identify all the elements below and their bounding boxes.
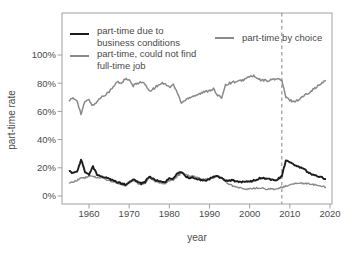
- y-tick-label: 80%: [37, 78, 57, 89]
- series-line-part-time-by-choice: [69, 75, 326, 115]
- y-tick-label: 40%: [37, 134, 57, 145]
- legend-line-business-conditions: [70, 33, 89, 35]
- x-tick-label: 2020: [319, 208, 340, 219]
- series-line-part-time-could-not-find-full-time-job: [69, 173, 326, 189]
- legend-text-line: part-time due to: [97, 25, 180, 37]
- legend-label-business-conditions: part-time due to business conditions: [97, 25, 180, 48]
- legend-text-line: part-time, could not find: [97, 48, 196, 60]
- legend-label-could-not-find: part-time, could not find full-time job: [97, 48, 196, 71]
- legend-text-line: part-time by choice: [242, 32, 322, 44]
- x-tick-label: 1970: [119, 208, 140, 219]
- part-time-rate-chart: 19601970198019902000201020200%20%40%60%8…: [0, 0, 353, 257]
- x-tick-label: 1990: [199, 208, 220, 219]
- x-tick-label: 2010: [279, 208, 300, 219]
- y-tick-label: 0%: [42, 190, 56, 201]
- legend-text-line: full-time job: [97, 60, 196, 72]
- x-tick-label: 1980: [159, 208, 180, 219]
- x-tick-label: 2000: [239, 208, 260, 219]
- y-axis-title: part-time rate: [6, 90, 17, 150]
- y-tick-label: 100%: [32, 49, 57, 60]
- series-line-part-time-due-to-business-conditions: [69, 160, 326, 186]
- x-axis-title: year: [187, 232, 207, 243]
- y-tick-label: 20%: [37, 162, 57, 173]
- y-tick-label: 60%: [37, 106, 57, 117]
- legend-text-line: business conditions: [97, 37, 180, 49]
- x-tick-label: 1960: [78, 208, 99, 219]
- legend-line-could-not-find: [70, 55, 89, 57]
- legend-line-by-choice: [215, 37, 234, 39]
- legend-label-by-choice: part-time by choice: [242, 32, 322, 44]
